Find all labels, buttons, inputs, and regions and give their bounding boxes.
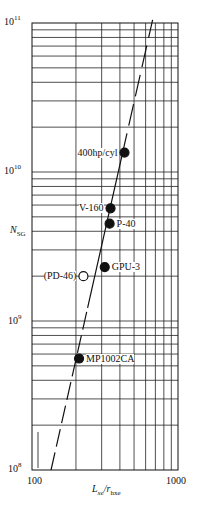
data-point [100,263,109,272]
plot-frame [32,23,178,470]
x-axis-label: Lxe/rhxe [92,484,121,497]
data-point [120,148,129,157]
x-tick-100: 100 [27,476,42,486]
y-tick-1e8: 108 [8,464,22,474]
point-label: GPU-3 [112,262,140,272]
data-point [75,354,84,363]
point-label: MP1002CA [86,354,134,364]
point-label: V-160 [79,203,104,213]
data-point [105,219,114,228]
data-point [106,204,115,213]
y-tick-1e10: 1010 [4,166,21,176]
chart [0,0,199,506]
point-label: P-40 [117,219,136,229]
y-tick-1e9: 109 [8,316,22,326]
y-tick-1e11: 1011 [4,17,21,27]
point-label: (PD-46) [44,271,77,281]
x-tick-1000: 1000 [166,476,186,486]
y-axis-label: NSG [10,225,26,238]
point-label: 400hp/cyl [77,148,117,158]
grid-lines [32,23,178,470]
data-point [79,272,88,281]
